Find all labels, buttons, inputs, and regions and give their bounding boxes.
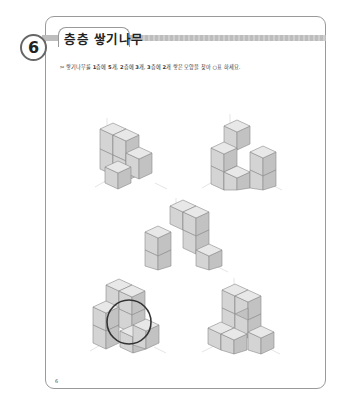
block-figure-e[interactable]	[198, 278, 288, 358]
problem-number-badge: 6	[20, 34, 47, 61]
header-stripe	[130, 35, 326, 41]
section-title: 층층 쌓기나무	[64, 29, 144, 48]
problem-number: 6	[28, 38, 39, 57]
block-figure-c[interactable]	[140, 198, 230, 273]
instruction-text: ✂ 쌓기나무를 1층에 5개, 2층에 3개, 3층에 2개 쌓은 모양을 찾아…	[60, 63, 240, 70]
page-number: 6	[55, 378, 58, 384]
block-figure-a[interactable]	[95, 115, 185, 195]
scissors-icon: ✂	[60, 64, 64, 70]
block-figure-b[interactable]	[200, 112, 290, 192]
block-figure-d[interactable]	[88, 275, 183, 355]
